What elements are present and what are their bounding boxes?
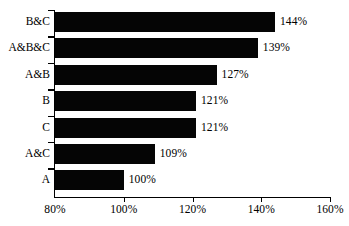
y-axis-tick <box>48 89 54 90</box>
bar-row: 109% <box>55 144 349 164</box>
bar-row: 139% <box>55 38 349 58</box>
y-axis-tick <box>48 116 54 117</box>
category-label: C <box>0 122 50 134</box>
x-axis-tick-label: 80% <box>30 204 80 216</box>
bar-row: 127% <box>55 65 349 85</box>
bar-row: 121% <box>55 118 349 138</box>
category-label: A&C <box>0 148 50 160</box>
x-axis-tick-label: 160% <box>305 204 349 216</box>
category-label: A&B <box>0 69 50 81</box>
bar-value-label: 127% <box>222 69 249 81</box>
bar-value-label: 139% <box>263 43 290 55</box>
bar-value-label: 100% <box>129 175 156 187</box>
bar-value-label: 121% <box>201 95 228 107</box>
bar-chart: 144%B&C139%A&B&C127%A&B121%B121%C109%A&C… <box>0 0 349 226</box>
x-axis-tick-label: 140% <box>236 204 286 216</box>
bar-value-label: 109% <box>160 148 187 160</box>
y-axis-tick <box>48 63 54 64</box>
bar <box>55 118 196 138</box>
x-axis-tick <box>261 197 262 202</box>
y-axis-tick <box>48 36 54 37</box>
bar <box>55 91 196 111</box>
bar <box>55 38 258 58</box>
x-axis-tick <box>124 197 125 202</box>
y-axis-tick <box>48 10 54 11</box>
bar <box>55 65 217 85</box>
category-label: A&B&C <box>0 42 50 54</box>
x-axis-tick-label: 120% <box>168 204 218 216</box>
x-axis-tick <box>330 197 331 202</box>
y-axis-tick <box>48 142 54 143</box>
x-axis-tick-label: 100% <box>99 204 149 216</box>
category-label: B <box>0 95 50 107</box>
x-axis-tick <box>193 197 194 202</box>
bar-row: 121% <box>55 91 349 111</box>
y-axis-tick <box>48 168 54 169</box>
bar-value-label: 121% <box>201 122 228 134</box>
category-label: A <box>0 174 50 186</box>
bar-value-label: 144% <box>280 16 307 28</box>
bar <box>55 12 275 32</box>
bar <box>55 170 124 190</box>
bar-row: 100% <box>55 170 349 190</box>
bar-row: 144% <box>55 12 349 32</box>
bar <box>55 144 155 164</box>
category-label: B&C <box>0 16 50 28</box>
